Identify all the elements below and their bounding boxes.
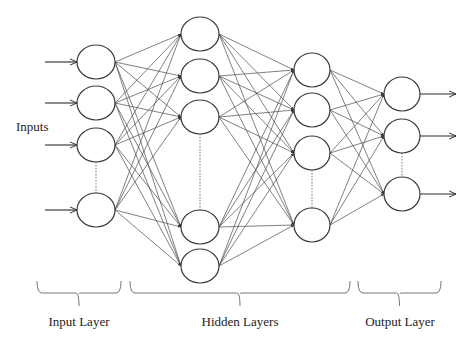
hidden-2-neuron (294, 93, 330, 127)
hidden-1-neuron (181, 210, 219, 244)
connection-edge (330, 194, 384, 225)
connection-edge (219, 110, 294, 117)
connection-edge (219, 70, 294, 266)
connection-edge (115, 145, 181, 227)
connection-edge (330, 70, 384, 94)
layer-braces (37, 281, 441, 306)
hidden-layers-label: Hidden Layers (202, 314, 279, 330)
connection-edge (219, 153, 294, 227)
hidden-2-neuron (294, 208, 330, 242)
output-neuron (384, 77, 420, 111)
output-layer-brace-icon (358, 281, 441, 306)
connection-edge (219, 76, 294, 153)
connection-edge (115, 34, 181, 62)
connection-edge (219, 225, 294, 227)
neuron-nodes (77, 17, 420, 283)
connection-edge (219, 34, 294, 225)
hidden-1-neuron (181, 17, 219, 51)
hidden-2-neuron (294, 136, 330, 170)
hidden-layers-brace-icon (130, 281, 350, 306)
output-neuron (384, 119, 420, 153)
input-neuron (77, 45, 115, 79)
hidden-2-neuron (294, 53, 330, 87)
input-neuron (77, 86, 115, 120)
connection-edge (115, 34, 181, 145)
connection-edge (115, 76, 181, 210)
hidden-1-neuron (181, 249, 219, 283)
output-neuron (384, 177, 420, 211)
output-layer-label: Output Layer (365, 314, 435, 330)
input-layer-label: Input Layer (48, 314, 109, 330)
connection-edge (330, 94, 384, 110)
input-neuron (77, 193, 115, 227)
connection-edge (330, 110, 384, 194)
connection-edge (330, 136, 384, 225)
connection-edge (115, 34, 181, 103)
input-layer-brace-icon (37, 281, 121, 306)
neural-network-diagram (0, 0, 473, 347)
connection-edge (219, 225, 294, 266)
inputs-label: Inputs (16, 119, 49, 135)
hidden-1-neuron (181, 59, 219, 93)
input-neuron (77, 128, 115, 162)
connection-edge (219, 70, 294, 76)
hidden-1-neuron (181, 100, 219, 134)
connection-edges (115, 34, 384, 266)
